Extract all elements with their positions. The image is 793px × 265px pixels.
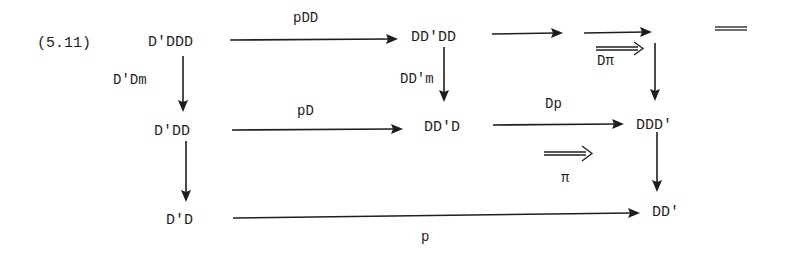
arrow-pDD [230,34,398,44]
arrow-mid-left-down [181,141,191,202]
node-top-mid: DD'DD [411,29,456,46]
label-D-pi: Dπ [597,53,614,69]
arrow-DD-prime-m [439,47,449,102]
node-mid-left: D'DD [154,123,190,140]
node-mid-mid: DD'D [424,119,460,136]
label-D-prime-Dm: D'Dm [113,72,147,88]
node-mid-right: DDD' [636,117,672,134]
arrow-blank-to-corner [584,27,652,37]
label-pDD: pDD [293,10,318,26]
node-bot-right: DD' [652,204,679,221]
label-pD: pD [297,103,314,119]
equality-mark [715,27,747,30]
node-bot-left: D'D [166,212,193,229]
arrow-p [233,208,640,218]
node-top-left: D'DDD [148,34,193,51]
arrow-D-prime-Dm [178,56,188,112]
arrow-mid-right-down [652,132,662,192]
arrow-corner-down [650,43,660,101]
two-cell-lower [544,146,592,161]
equation-number: (5.11) [37,35,91,52]
label-DD-prime-m: DD'm [400,71,434,87]
arrow-top-mid-to-blank [492,28,563,38]
commutative-diagram: (5.11) D'DDD DD'DD D'DD DD'D DDD' D'D DD… [0,0,793,265]
label-Dp: Dp [545,96,562,112]
arrow-pD [232,124,403,134]
arrow-Dp [493,119,624,129]
label-pi: π [561,170,570,186]
label-p: p [421,229,429,245]
